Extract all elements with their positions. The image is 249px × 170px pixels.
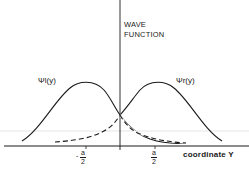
tick-label-minus-a-half: - a 2 (80, 149, 86, 166)
tick-denominator: 2 (151, 158, 157, 166)
x-axis-title: coordinate Y (183, 150, 234, 159)
tick-numerator: a (80, 149, 86, 158)
y-axis-title-line2: FUNCTION (124, 30, 164, 40)
y-axis-title-line1: WAVE (124, 20, 164, 30)
psi-left-label: Ψl(y) (38, 76, 56, 85)
y-axis-title: WAVE FUNCTION (124, 20, 164, 40)
tick-label-a-half: a 2 (151, 149, 157, 166)
minus-sign: - (76, 152, 78, 160)
psi-right-tail-dashed (55, 115, 120, 142)
psi-left-tail-dashed (120, 115, 186, 143)
tick-denominator: 2 (80, 158, 86, 166)
tick-numerator: a (151, 149, 157, 158)
psi-left-curve (22, 82, 186, 143)
psi-right-label: Ψr(y) (176, 76, 195, 85)
